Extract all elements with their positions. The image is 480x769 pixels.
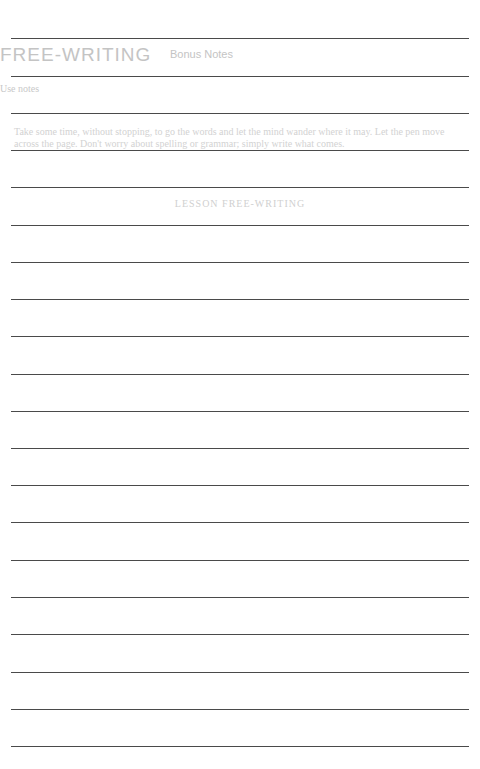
writing-line (11, 336, 469, 337)
writing-line (11, 597, 469, 598)
writing-line (11, 38, 469, 39)
writing-line (11, 522, 469, 523)
free-writing-page: FREE-WRITING Bonus Notes Use notes Take … (0, 0, 480, 769)
writing-line (11, 634, 469, 635)
writing-line (11, 262, 469, 263)
writing-line (11, 448, 469, 449)
page-subtitle: Bonus Notes (170, 48, 233, 60)
writing-line (11, 485, 469, 486)
writing-line (11, 746, 469, 747)
instructions-text: Take some time, without stopping, to go … (14, 126, 466, 150)
writing-line (11, 411, 469, 412)
writing-line (11, 709, 469, 710)
writing-line (11, 374, 469, 375)
writing-line (11, 113, 469, 114)
page-title: FREE-WRITING (0, 44, 151, 66)
writing-line (11, 76, 469, 77)
writing-line (11, 150, 469, 151)
writing-line (11, 672, 469, 673)
notes-label: Use notes (0, 83, 39, 94)
section-heading: LESSON FREE-WRITING (0, 198, 480, 209)
writing-line (11, 560, 469, 561)
writing-line (11, 299, 469, 300)
writing-line (11, 187, 469, 188)
writing-line (11, 225, 469, 226)
